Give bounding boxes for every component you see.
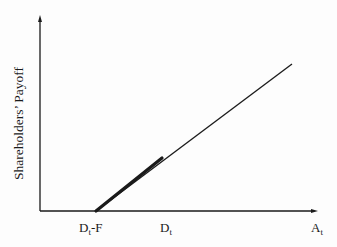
payoff-bold-segment: [96, 158, 162, 211]
x-axis: [40, 209, 318, 213]
y-axis-arrow-icon: [38, 15, 42, 22]
tick-label-at: At: [311, 220, 323, 237]
x-axis-arrow-icon: [311, 209, 318, 213]
tick-label-dt-minus-f: Dt-F: [79, 220, 102, 237]
tick-label-dt: Dt: [160, 220, 172, 237]
y-axis: [38, 15, 42, 211]
y-axis-label: Shareholders’ Payoff: [11, 66, 26, 180]
payoff-diagram: Shareholders’ Payoff Dt-F Dt At: [0, 0, 337, 247]
